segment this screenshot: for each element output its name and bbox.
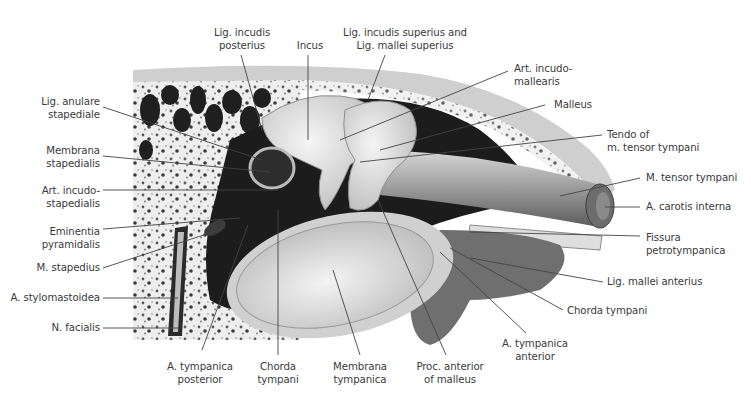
- label-a-carotis-interna: A. carotis interna: [646, 201, 751, 214]
- label-tendo-tensor-tympani: Tendo of m. tensor tympani: [607, 129, 727, 154]
- label-art-incudo-mallearis: Art. incudo- mallearis: [514, 63, 604, 88]
- label-a-stylomastoidea: A. stylomastoidea: [0, 292, 100, 305]
- anatomical-illustration: [0, 0, 751, 399]
- label-eminentia-pyramidalis: Eminentia pyramidalis: [14, 226, 100, 251]
- label-lig-anulare-stapediale: Lig. anulare stapediale: [14, 96, 100, 121]
- label-art-incudo-stapedialis: Art. incudo- stapedialis: [14, 185, 100, 210]
- label-n-facialis: N. facialis: [4, 322, 100, 335]
- label-incus: Incus: [290, 40, 330, 53]
- label-m-tensor-tympani: M. tensor tympani: [646, 172, 751, 185]
- label-m-stapedius: M. stapedius: [4, 262, 100, 275]
- label-lig-incudis-superius: Lig. incudis superius and Lig. mallei su…: [340, 27, 470, 52]
- label-membrana-stapedialis: Membrana stapedialis: [14, 145, 100, 170]
- stapes: [250, 148, 294, 188]
- label-lig-incudis-posterius: Lig. incudis posterius: [206, 27, 278, 52]
- label-chorda-tympani-right: Chorda tympani: [567, 305, 667, 318]
- label-a-tympanica-posterior: A. tympanica posterior: [160, 361, 240, 386]
- label-fissura-petrotympanica: Fissura petrotympanica: [646, 232, 751, 257]
- label-membrana-tympanica: Membrana tympanica: [330, 361, 390, 386]
- label-malleus: Malleus: [554, 99, 624, 112]
- label-proc-anterior-malleus: Proc. anterior of malleus: [410, 361, 490, 386]
- label-a-tympanica-anterior: A. tympanica anterior: [500, 338, 570, 363]
- label-lig-mallei-anterius: Lig. mallei anterius: [607, 276, 727, 289]
- label-chorda-tympani-bottom: Chorda tympani: [250, 361, 306, 386]
- middle-ear-figure: Lig. anulare stapediale Membrana stapedi…: [0, 0, 751, 399]
